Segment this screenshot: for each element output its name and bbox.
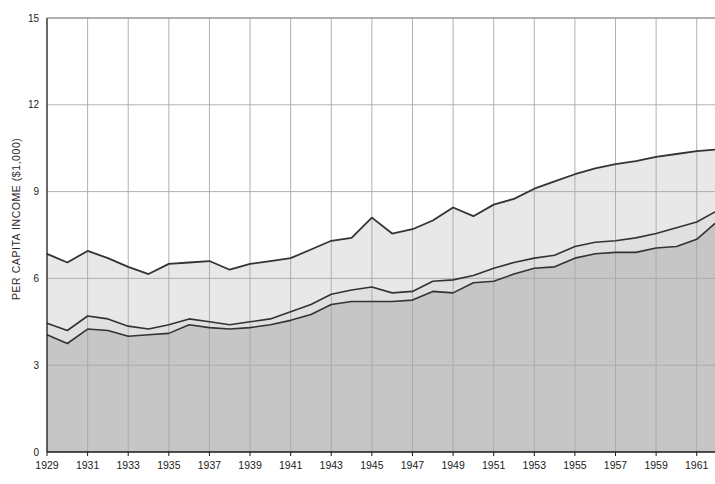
x-tick-label: 1959 <box>644 459 668 471</box>
x-axis-tick-labels: 1929193119331935193719391941194319451947… <box>35 452 708 471</box>
x-tick-label: 1933 <box>117 459 141 471</box>
x-tick-label: 1931 <box>76 459 100 471</box>
x-tick-label: 1937 <box>198 459 222 471</box>
x-tick-label: 1961 <box>685 459 709 471</box>
x-tick-label: 1957 <box>604 459 628 471</box>
chart-container: 03691215 1929193119331935193719391941194… <box>0 0 715 484</box>
x-tick-label: 1953 <box>523 459 547 471</box>
x-tick-label: 1945 <box>360 459 384 471</box>
y-tick-label: 6 <box>33 273 39 284</box>
x-tick-label: 1947 <box>401 459 425 471</box>
y-axis-tick-labels: 03691215 <box>28 13 40 458</box>
x-tick-label: 1943 <box>320 459 344 471</box>
y-tick-label: 15 <box>28 13 40 24</box>
x-tick-label: 1949 <box>441 459 465 471</box>
x-tick-label: 1939 <box>238 459 262 471</box>
x-tick-label: 1951 <box>482 459 506 471</box>
x-tick-label: 1935 <box>157 459 181 471</box>
x-tick-label: 1929 <box>35 459 59 471</box>
y-tick-label: 0 <box>33 447 39 458</box>
per-capita-income-area-chart: 03691215 1929193119331935193719391941194… <box>0 0 715 484</box>
y-axis-title: PER CAPITA INCOME ($1,000) <box>10 138 22 300</box>
y-tick-label: 3 <box>33 360 39 371</box>
y-tick-label: 12 <box>28 99 40 110</box>
y-tick-label: 9 <box>33 186 39 197</box>
x-tick-label: 1955 <box>563 459 587 471</box>
x-tick-label: 1941 <box>279 459 303 471</box>
